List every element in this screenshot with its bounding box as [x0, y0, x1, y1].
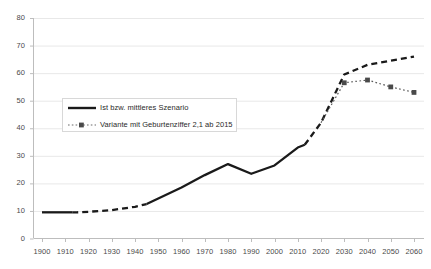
series-marker	[342, 80, 347, 85]
y-tick-label: 30	[3, 151, 25, 160]
x-tick-label: 1950	[145, 247, 171, 256]
x-tick-label: 1930	[99, 247, 125, 256]
series-marker	[412, 90, 417, 95]
x-tick-label: 1990	[238, 247, 264, 256]
y-tick-label: 50	[3, 96, 25, 105]
y-tick-label: 80	[3, 13, 25, 22]
y-tick-label: 10	[3, 206, 25, 215]
y-tick-label: 0	[3, 234, 25, 243]
x-tick-label: 2000	[262, 247, 288, 256]
legend-item-primary: Ist bzw. mittleres Szenario	[63, 99, 188, 116]
x-tick-label: 1940	[122, 247, 148, 256]
series-marker	[365, 78, 370, 83]
x-tick-label: 2020	[308, 247, 334, 256]
x-tick-label: 1920	[76, 247, 102, 256]
legend-item-secondary: Variante mit Geburtenziffer 2,1 ab 2015	[63, 116, 233, 133]
dotted-marker-line-key-icon	[67, 118, 97, 132]
data-series-group	[42, 57, 416, 213]
chart-plot-area	[0, 0, 431, 269]
legend-label-primary: Ist bzw. mittleres Szenario	[100, 103, 188, 112]
chart-legend: Ist bzw. mittleres Szenario Variante mit…	[62, 98, 237, 132]
x-tick-label: 2010	[285, 247, 311, 256]
x-tick-label: 2060	[401, 247, 427, 256]
x-tick-label: 1980	[215, 247, 241, 256]
x-tick-label: 1970	[192, 247, 218, 256]
solid-line-key-icon	[67, 101, 97, 115]
y-tick-label: 60	[3, 68, 25, 77]
series-marker	[388, 85, 393, 90]
y-tick-label: 40	[3, 123, 25, 132]
legend-label-secondary: Variante mit Geburtenziffer 2,1 ab 2015	[100, 120, 233, 129]
y-tick-label: 20	[3, 178, 25, 187]
series-line-primary	[147, 145, 305, 204]
x-tick-label: 1910	[52, 247, 78, 256]
chart-container: 80706050403020100 1900191019201930194019…	[0, 0, 431, 269]
x-tick-label: 1960	[169, 247, 195, 256]
x-tick-label: 2030	[331, 247, 357, 256]
x-tick-label: 2040	[355, 247, 381, 256]
y-tick-label: 70	[3, 41, 25, 50]
x-tick-label: 1900	[29, 247, 55, 256]
x-tick-label: 2050	[378, 247, 404, 256]
